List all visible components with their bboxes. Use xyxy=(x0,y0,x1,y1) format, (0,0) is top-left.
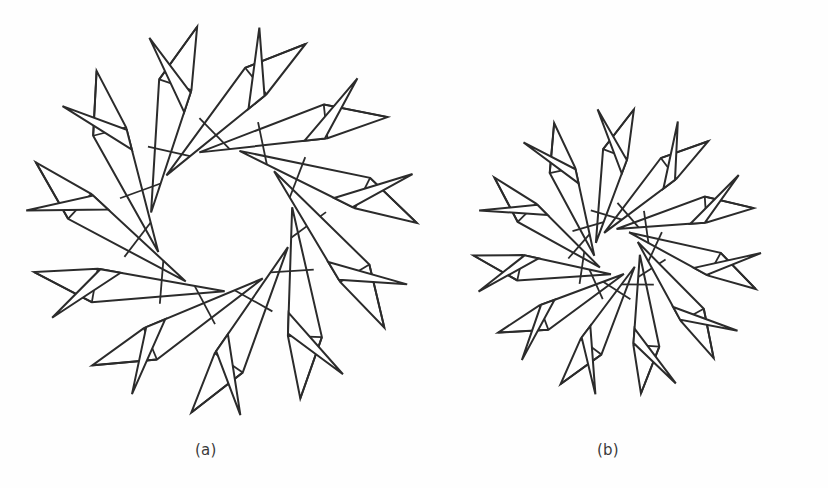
figure-a-caption: (a) xyxy=(195,441,217,459)
figure-plate-canvas xyxy=(0,0,828,488)
figure-plate: (a) (b) xyxy=(0,0,828,488)
figure-b-caption: (b) xyxy=(597,441,619,459)
